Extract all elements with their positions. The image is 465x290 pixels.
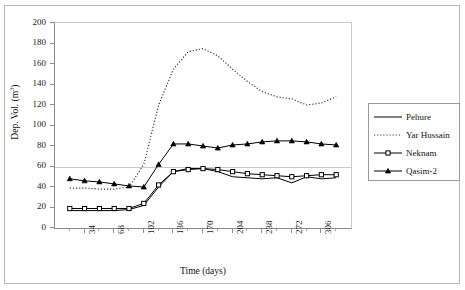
legend-swatch-solid-line [373, 111, 403, 123]
x-tick-mark [202, 229, 203, 233]
x-axis-title: Time (days) [54, 266, 352, 276]
legend-swatch-dotted-line [373, 129, 403, 141]
legend-item-label: Pehure [406, 112, 431, 122]
x-tick-mark [84, 229, 85, 233]
legend-item-pehure[interactable]: Pehure [369, 108, 459, 126]
legend-swatch-line-triangle-marker [373, 165, 403, 177]
x-tick-mark [261, 229, 262, 233]
x-minor-tick-mark [276, 229, 277, 231]
x-minor-tick-mark [187, 229, 188, 231]
x-tick-mark [172, 229, 173, 233]
x-tick-mark [320, 229, 321, 233]
x-tick-mark [232, 229, 233, 233]
data-point-marker [386, 151, 390, 155]
legend-item-label: Yar Hussain [406, 130, 450, 140]
legend-swatch-line-square-marker [373, 147, 403, 159]
legend-item-yar-hussain[interactable]: Yar Hussain [369, 126, 459, 144]
x-minor-tick-mark [246, 229, 247, 231]
x-tick-mark [113, 229, 114, 233]
chart-figure: Dep. Vol. (m3) 0204060801001201401601802… [0, 0, 465, 290]
legend-item-qasim-2[interactable]: Qasim-2 [369, 162, 459, 180]
legend-item-label: Neknam [406, 148, 437, 158]
x-minor-tick-mark [98, 229, 99, 231]
legend-box: PehureYar HussainNeknamQasim-2 [368, 103, 460, 181]
x-tick-label: 306 [324, 221, 333, 235]
legend-item-label: Qasim-2 [406, 166, 437, 176]
x-tick-label: 272 [295, 221, 304, 235]
x-tick-label: 102 [147, 221, 156, 235]
x-tick-label: 68 [117, 225, 126, 234]
x-minor-tick-mark [158, 229, 159, 231]
x-tick-label: 238 [265, 221, 274, 235]
x-tick-mark [291, 229, 292, 233]
x-tick-label: 34 [88, 225, 97, 234]
x-tick-label: 136 [176, 221, 185, 235]
x-tick-mark [143, 229, 144, 233]
legend-item-neknam[interactable]: Neknam [369, 144, 459, 162]
x-minor-tick-mark [306, 229, 307, 231]
x-minor-tick-mark [335, 229, 336, 231]
x-tick-label: 170 [206, 221, 215, 235]
x-minor-tick-mark [128, 229, 129, 231]
x-tick-label: 204 [236, 221, 245, 235]
x-minor-tick-mark [69, 229, 70, 231]
x-minor-tick-mark [217, 229, 218, 231]
